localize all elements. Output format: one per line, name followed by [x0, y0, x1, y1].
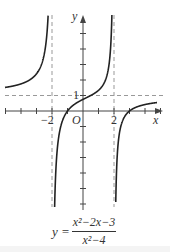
x-tick-label-neg2: −2 — [41, 114, 54, 126]
x-axis-label: x — [153, 114, 158, 126]
curve-branch-left — [5, 16, 48, 88]
y-tick-label-1: 1 — [73, 89, 79, 101]
origin-label: O — [72, 114, 81, 126]
y-axis-arrow-icon — [80, 15, 86, 23]
formula-lhs: y = — [52, 224, 70, 240]
formula-numerator: x²−2x−3 — [72, 215, 116, 232]
axes — [5, 15, 163, 210]
curve-branch-right — [116, 103, 157, 202]
formula-fraction: x²−2x−3 x²−4 — [72, 215, 116, 248]
bottom-band — [0, 246, 170, 252]
y-axis-label: y — [72, 10, 77, 22]
function-formula: y = x²−2x−3 x²−4 — [52, 215, 116, 248]
x-tick-label-2: 2 — [111, 114, 117, 126]
